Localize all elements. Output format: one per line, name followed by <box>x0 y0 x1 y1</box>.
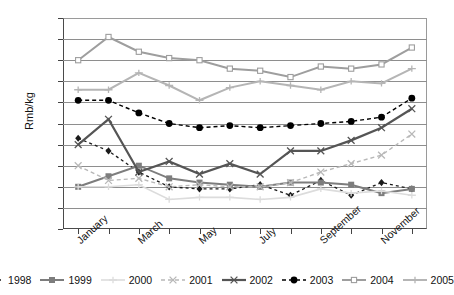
series-2002 <box>75 105 415 177</box>
x-tick-mark <box>351 229 352 234</box>
legend-item-2004[interactable]: 2004 <box>341 274 393 286</box>
legend-symbol-2002 <box>221 274 247 286</box>
legend-symbol-2005 <box>402 274 428 286</box>
series-2000 <box>74 181 416 202</box>
legend-label-1998: 1998 <box>8 274 31 286</box>
x-tick-mark <box>291 229 292 234</box>
legend-label-2002: 2002 <box>250 274 273 286</box>
legend-item-2003[interactable]: 2003 <box>281 274 333 286</box>
legend-label-2005: 2005 <box>431 274 454 286</box>
legend-symbol-1998 <box>0 274 5 286</box>
legend-label-2000: 2000 <box>129 274 152 286</box>
legend-label-2003: 2003 <box>310 274 333 286</box>
legend-label-1999: 1999 <box>68 274 91 286</box>
legend-item-2005[interactable]: 2005 <box>402 274 454 286</box>
x-tick-mark <box>412 229 413 234</box>
legend-symbol-2001 <box>160 274 186 286</box>
legend-item-1999[interactable]: 1999 <box>39 274 91 286</box>
legend-item-2002[interactable]: 2002 <box>221 274 273 286</box>
x-tick-mark <box>169 229 170 234</box>
legend-label-2004: 2004 <box>370 274 393 286</box>
legend-item-2000[interactable]: 2000 <box>100 274 152 286</box>
series-2004 <box>76 34 415 79</box>
y-axis-title: Rmb/kg <box>23 66 35 156</box>
legend-symbol-1999 <box>39 274 65 286</box>
series-2005 <box>74 65 416 103</box>
legend-symbol-2004 <box>341 274 367 286</box>
x-tick-mark <box>109 229 110 234</box>
plot-area <box>63 18 427 229</box>
x-tick-mark <box>230 229 231 234</box>
legend-item-2001[interactable]: 2001 <box>160 274 212 286</box>
chart-legend: 19981999200020012002200320042005 <box>0 270 433 290</box>
y-tick-mark <box>58 229 63 230</box>
legend-label-2001: 2001 <box>189 274 212 286</box>
legend-symbol-2000 <box>100 274 126 286</box>
series-lines <box>63 18 427 229</box>
series-2003 <box>75 95 415 131</box>
legend-symbol-2003 <box>281 274 307 286</box>
series-2001 <box>75 131 415 191</box>
legend-item-1998[interactable]: 1998 <box>0 274 31 286</box>
